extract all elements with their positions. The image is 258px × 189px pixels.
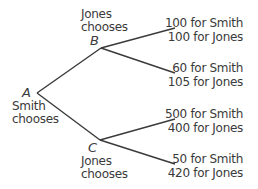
outcome-2: 60 for Smith 105 for Jones: [168, 62, 243, 89]
outcome-1: 100 for Smith 100 for Jones: [165, 17, 243, 44]
node-a-letter: A: [22, 86, 31, 100]
outcome-4-smith: 50 for Smith: [168, 153, 243, 167]
edge-b-outcome-2: [101, 48, 175, 73]
outcome-3-smith: 500 for Smith: [165, 108, 243, 122]
node-c-letter: C: [88, 141, 97, 155]
node-b-letter: B: [90, 34, 99, 48]
outcome-2-jones: 105 for Jones: [168, 76, 243, 90]
outcome-4-jones: 420 for Jones: [168, 167, 243, 181]
outcome-3: 500 for Smith 400 for Jones: [165, 108, 243, 135]
edge-a-b: [37, 48, 101, 93]
node-c-label-line2: chooses: [81, 168, 128, 181]
outcome-1-jones: 100 for Jones: [165, 31, 243, 45]
node-a-label-line2: chooses: [12, 113, 59, 126]
node-b-label: Jones chooses: [81, 8, 128, 34]
outcome-4: 50 for Smith 420 for Jones: [168, 153, 243, 180]
outcome-3-jones: 400 for Jones: [165, 122, 243, 136]
edge-c-outcome-3: [100, 119, 175, 140]
node-a-label: Smith chooses: [12, 100, 59, 126]
node-b-label-line2: chooses: [81, 21, 128, 34]
outcome-1-smith: 100 for Smith: [165, 17, 243, 31]
outcome-2-smith: 60 for Smith: [168, 62, 243, 76]
node-c-label: Jones chooses: [81, 155, 128, 181]
